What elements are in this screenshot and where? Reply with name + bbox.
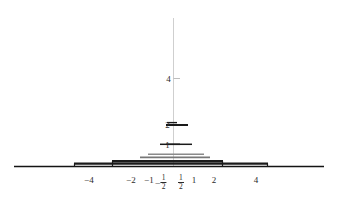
fraction-numerator: 1 xyxy=(161,174,167,182)
x-tick-label-minus-one-half: – 1 2 xyxy=(155,174,166,190)
y-tick-label-1: 1 xyxy=(165,140,170,149)
x-tick-label-minus4: −4 xyxy=(84,176,94,185)
fraction-numerator: 1 xyxy=(178,174,184,182)
y-tick-label-4: 4 xyxy=(166,74,171,83)
x-tick-label-1: 1 xyxy=(192,176,197,185)
x-tick-label-one-half: 1 2 xyxy=(178,174,184,190)
fraction-one-half: 1 2 xyxy=(161,174,167,190)
minus-sign-glyph: – xyxy=(155,178,160,187)
plot-svg xyxy=(0,0,337,202)
figure-canvas: 4 2 1 −4 −2 −1 – 1 2 1 2 1 2 4 xyxy=(0,0,337,202)
fraction-one-half-positive: 1 2 xyxy=(178,174,184,190)
x-tick-label-minus2: −2 xyxy=(126,176,136,185)
x-tick-label-minus1: −1 xyxy=(144,176,154,185)
x-tick-label-4: 4 xyxy=(254,176,259,185)
fraction-denominator: 2 xyxy=(161,182,167,191)
x-tick-label-2: 2 xyxy=(212,176,217,185)
y-tick-label-2: 2 xyxy=(165,121,170,130)
fraction-denominator: 2 xyxy=(178,182,184,191)
